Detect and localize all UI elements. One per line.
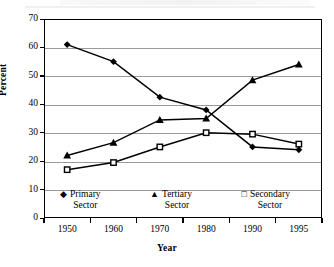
- y-tick-label: 70: [14, 14, 38, 24]
- gridline: [45, 105, 321, 106]
- x-tick-mark: [182, 218, 183, 223]
- y-tick-mark: [40, 132, 44, 133]
- y-tick-label: 50: [14, 71, 38, 81]
- legend-item-tertiary-sector: ▲ Tertiary Sector: [150, 189, 192, 211]
- x-tick-mark: [275, 218, 276, 223]
- legend-label-primary: Primary Sector: [70, 189, 101, 211]
- y-tick-mark: [40, 19, 44, 20]
- y-tick-mark: [40, 189, 44, 190]
- legend-label-secondary: Secondary Sector: [250, 189, 290, 211]
- y-tick-mark: [40, 104, 44, 105]
- x-axis-label: Year: [0, 243, 334, 253]
- legend-label-tertiary: Tertiary Sector: [162, 189, 192, 211]
- y-tick-label: 10: [14, 185, 38, 195]
- scan-artifact-line: [25, 6, 315, 8]
- y-tick-mark: [40, 75, 44, 76]
- chart-legend: ◆ Primary Sector ▲ Tertiary Sector □ Sec…: [60, 189, 290, 211]
- x-tick-mark: [136, 218, 137, 223]
- legend-label-secondary-line2: Sector: [250, 200, 290, 211]
- legend-label-tertiary-line1: Tertiary: [162, 189, 192, 199]
- y-tick-mark: [40, 47, 44, 48]
- legend-item-secondary-sector: □ Secondary Sector: [241, 189, 290, 211]
- y-tick-label: 60: [14, 42, 38, 52]
- x-tick-label: 1970: [140, 224, 180, 234]
- y-tick-mark: [40, 161, 44, 162]
- x-tick-label: 1995: [279, 224, 319, 234]
- legend-item-primary-sector: ◆ Primary Sector: [60, 189, 101, 211]
- filled-triangle-marker-icon: ▲: [150, 189, 159, 200]
- gridline: [45, 162, 321, 163]
- x-tick-mark: [321, 218, 322, 223]
- x-tick-label: 1960: [94, 224, 134, 234]
- y-tick-label: 40: [14, 99, 38, 109]
- y-tick-label: 0: [14, 213, 38, 223]
- scan-artifact: [60, 0, 310, 5]
- x-tick-label: 1950: [47, 224, 87, 234]
- open-square-marker-icon: □: [241, 189, 246, 200]
- x-tick-mark: [43, 218, 44, 223]
- x-tick-mark: [90, 218, 91, 223]
- y-axis-label: Percent: [0, 64, 8, 96]
- x-tick-mark: [229, 218, 230, 223]
- gridline: [45, 133, 321, 134]
- legend-label-primary-line1: Primary: [70, 189, 101, 199]
- legend-label-tertiary-line2: Sector: [162, 200, 192, 211]
- x-tick-label: 1980: [186, 224, 226, 234]
- gridline: [45, 48, 321, 49]
- y-tick-label: 30: [14, 128, 38, 138]
- legend-label-secondary-line1: Secondary: [250, 189, 290, 199]
- gridline: [45, 76, 321, 77]
- line-chart: Percent 010203040506070 1950196019701980…: [0, 0, 334, 267]
- x-tick-label: 1990: [233, 224, 273, 234]
- legend-label-primary-line2: Sector: [70, 200, 101, 211]
- y-tick-label: 20: [14, 156, 38, 166]
- filled-diamond-marker-icon: ◆: [60, 189, 67, 200]
